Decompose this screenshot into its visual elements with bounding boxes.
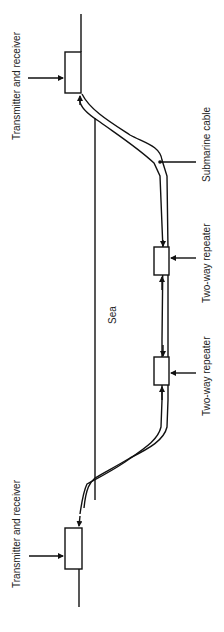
cable-inner-path xyxy=(80,97,163,514)
cable-pointer-dot xyxy=(158,160,162,164)
bottom-transmitter-box xyxy=(65,528,82,569)
cable-to-bottom-arrow xyxy=(79,516,80,526)
top-transmitter-box xyxy=(65,52,81,93)
label-transmitter-bottom: Transmitter and receiver xyxy=(11,479,22,588)
label-submarine-cable: Submarine cable xyxy=(201,107,212,182)
label-sea: Sea xyxy=(107,306,118,324)
label-repeater-2: Two-way repeater xyxy=(201,336,212,416)
repeater-1-box xyxy=(154,247,169,275)
label-transmitter-top: Transmitter and receiver xyxy=(11,31,22,140)
submarine-cable-diagram: Transmitter and receiver Transmitter and… xyxy=(0,0,224,632)
label-repeater-1: Two-way repeater xyxy=(201,223,212,303)
repeater-2-box xyxy=(154,357,169,385)
